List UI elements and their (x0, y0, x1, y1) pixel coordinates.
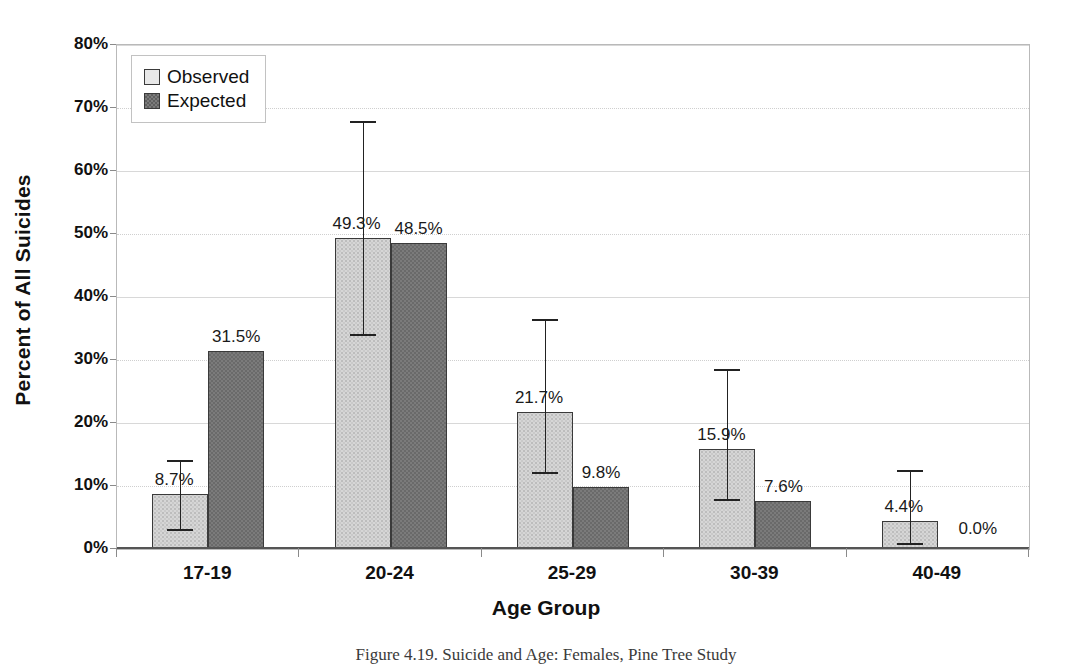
y-tick-label: 60% (56, 160, 108, 180)
figure-caption: Figure 4.19. Suicide and Age: Females, P… (0, 645, 1092, 665)
error-bar-cap-upper (532, 319, 558, 321)
y-tick-label: 70% (56, 97, 108, 117)
bar-expected (755, 501, 811, 549)
legend-item-expected: Expected (144, 90, 249, 112)
legend-item-observed: Observed (144, 66, 249, 88)
data-label-expected: 9.8% (582, 463, 621, 483)
y-axis-title: Percent of All Suicides (11, 130, 35, 450)
data-label-expected: 31.5% (212, 327, 260, 347)
error-bar-cap-lower (897, 543, 923, 545)
error-bar-cap-upper (167, 460, 193, 462)
error-bar-cap-lower (167, 529, 193, 531)
y-tick-label: 10% (56, 475, 108, 495)
y-axis-tick-labels: 0%10%20%30%40%50%60%70%80% (56, 44, 108, 548)
data-label-expected: 0.0% (958, 519, 997, 539)
data-label-observed: 8.7% (155, 470, 194, 490)
bar-expected (573, 487, 629, 549)
x-tick-mark (116, 548, 117, 557)
error-bar-cap-lower (532, 472, 558, 474)
data-label-observed: 4.4% (884, 497, 923, 517)
x-category-label: 20-24 (365, 562, 414, 584)
y-tick-label: 50% (56, 223, 108, 243)
y-tick-label: 20% (56, 412, 108, 432)
y-tick-label: 30% (56, 349, 108, 369)
x-tick-mark (298, 548, 299, 557)
plot-area: 8.7%31.5%49.3%48.5%21.7%9.8%15.9%7.6%4.4… (116, 44, 1030, 550)
error-bar-cap-lower (714, 499, 740, 501)
error-bar-cap-upper (350, 121, 376, 123)
x-tick-mark (846, 548, 847, 557)
x-axis-tick-marks (116, 548, 1028, 558)
error-bar-cap-upper (897, 470, 923, 472)
y-tick-label: 80% (56, 34, 108, 54)
legend-label-expected: Expected (167, 90, 246, 112)
data-label-expected: 7.6% (764, 477, 803, 497)
x-tick-mark (481, 548, 482, 557)
x-tick-mark (663, 548, 664, 557)
chart-legend: Observed Expected (131, 55, 266, 123)
legend-label-observed: Observed (167, 66, 249, 88)
data-label-observed: 15.9% (697, 425, 745, 445)
error-bar-cap-upper (714, 369, 740, 371)
data-label-expected: 48.5% (394, 219, 442, 239)
x-category-label: 30-39 (730, 562, 779, 584)
error-bar-cap-lower (350, 334, 376, 336)
y-tick-label: 0% (56, 538, 108, 558)
x-category-label: 25-29 (548, 562, 597, 584)
data-label-observed: 49.3% (332, 214, 380, 234)
legend-swatch-observed-icon (144, 69, 160, 85)
y-tick-label: 40% (56, 286, 108, 306)
x-axis-category-labels: 17-1920-2425-2930-3940-49 (116, 562, 1028, 590)
x-category-label: 40-49 (912, 562, 961, 584)
bar-expected (208, 351, 264, 549)
x-tick-mark (1028, 548, 1029, 557)
x-axis-title: Age Group (0, 596, 1092, 620)
x-category-label: 17-19 (183, 562, 232, 584)
legend-swatch-expected-icon (144, 93, 160, 109)
bar-expected (391, 243, 447, 549)
data-label-observed: 21.7% (515, 388, 563, 408)
